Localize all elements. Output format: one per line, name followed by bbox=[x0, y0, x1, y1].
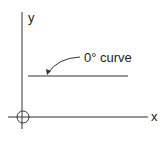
y-axis-label: y bbox=[28, 11, 35, 24]
diagram-canvas bbox=[0, 0, 168, 142]
curve-label: 0° curve bbox=[84, 51, 132, 64]
curve-arrow bbox=[48, 57, 80, 73]
x-axis-label: x bbox=[151, 110, 158, 123]
